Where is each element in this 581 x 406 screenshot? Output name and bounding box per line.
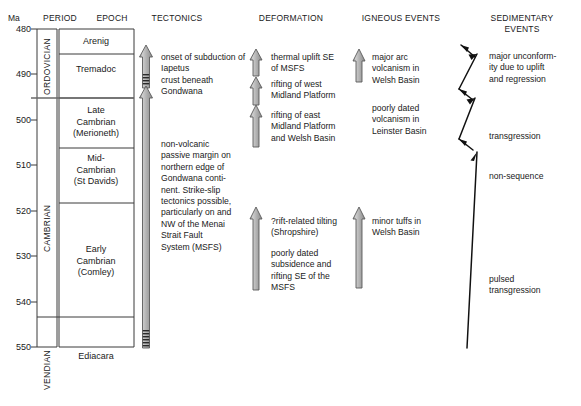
- period-label-cambrian: CAMBRIAN: [42, 205, 52, 252]
- sedimentary-event-text-3: non-sequence: [489, 171, 581, 182]
- epoch-column-box: [59, 29, 134, 347]
- axis-tick-480: 480: [5, 24, 31, 34]
- tectonics-event-text-2: non-volcanic passive margin on northern …: [161, 139, 253, 253]
- deformation-event-text-1: thermal uplift SE of MSFS: [271, 52, 363, 75]
- axis-tick-550: 550: [5, 342, 31, 352]
- column-header-period: PERIOD: [34, 13, 86, 23]
- period-label-ordovician: ORDOVICIAN: [42, 38, 52, 95]
- epoch-label-tremadoc: Tremadoc: [63, 64, 129, 76]
- igneous-event-text-1: major arc volcanism in Welsh Basin: [372, 52, 464, 86]
- deformation-event-text-4: ?rift-related tilting (Shropshire): [271, 216, 365, 239]
- sedimentary-event-text-4: pulsed transgression: [489, 274, 581, 297]
- deformation-arrow-rifting-west: [250, 77, 262, 105]
- tectonics-arrow-hatch-upper: [143, 74, 149, 84]
- sedimentary-event-text-1: major unconform- ity due to uplift and r…: [489, 51, 581, 85]
- column-header-tectonics: TECTONICS: [122, 13, 232, 23]
- epoch-label-ediacara: Ediacara: [63, 351, 129, 363]
- epoch-label-arenig: Arenig: [63, 36, 129, 48]
- axis-tick-520: 520: [5, 206, 31, 216]
- deformation-event-text-3: rifting of east Midland Platform and Wel…: [271, 110, 363, 144]
- period-label-vendian: VENDIAN: [42, 350, 52, 390]
- sedimentary-zigzag-arrows: [459, 45, 477, 348]
- epoch-label-early-cambrian: Early Cambrian (Comley): [63, 244, 129, 279]
- geological-timescale-diagram: Ma PERIOD EPOCH TECTONICS DEFORMATION IG…: [0, 0, 581, 406]
- axis-tick-540: 540: [5, 297, 31, 307]
- axis-tick-490: 490: [5, 69, 31, 79]
- tectonics-event-text-1: onset of subduction of Iapetus crust ben…: [161, 52, 249, 98]
- igneous-event-text-3: minor tuffs in Welsh Basin: [372, 216, 464, 239]
- axis-tick-500: 500: [5, 115, 31, 125]
- axis-unit-header: Ma: [8, 13, 20, 23]
- column-header-sedimentary: SEDIMENTARY EVENTS: [470, 13, 574, 35]
- epoch-label-late-cambrian: Late Cambrian (Merioneth): [63, 105, 129, 140]
- epoch-label-mid-cambrian: Mid- Cambrian (St Davids): [63, 153, 129, 188]
- tectonics-arrow-subduction: [140, 45, 153, 88]
- time-axis: [31, 29, 37, 347]
- sedimentary-event-text-2: transgression: [489, 131, 581, 142]
- axis-tick-530: 530: [5, 251, 31, 261]
- deformation-event-text-2: rifting of west Midland Platform: [271, 79, 363, 102]
- deformation-arrow-thermal-uplift: [250, 49, 262, 76]
- igneous-event-text-2: poorly dated volcanism in Leinster Basin: [372, 103, 464, 137]
- tectonics-arrow-hatch-lower: [143, 330, 149, 346]
- column-header-deformation: DEFORMATION: [232, 13, 350, 23]
- deformation-event-text-5: poorly dated subsidence and rifting SE o…: [271, 248, 363, 294]
- column-header-igneous: IGNEOUS EVENTS: [345, 13, 457, 23]
- axis-tick-510: 510: [5, 160, 31, 170]
- tectonics-arrow-passive-margin: [140, 86, 153, 348]
